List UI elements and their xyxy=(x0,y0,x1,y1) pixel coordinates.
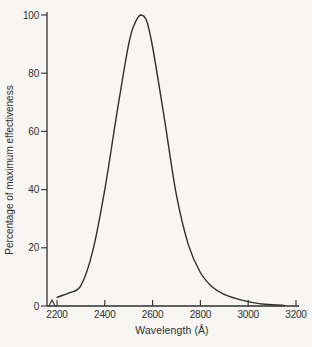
y-tick-label: 40 xyxy=(28,184,39,195)
y-axis-title: Percentage of maximum effectiveness xyxy=(4,85,15,254)
x-tick-label: 3000 xyxy=(237,309,259,320)
y-tick-label: 20 xyxy=(28,242,39,253)
y-tick-label: 100 xyxy=(23,10,40,21)
axis-break-mark xyxy=(49,300,55,306)
x-tick-label: 3200 xyxy=(285,309,307,320)
x-tick-label: 2400 xyxy=(94,309,116,320)
scanned-chart-figure: 020406080100 220024002600280030003200 Wa… xyxy=(0,0,312,347)
x-tick-label: 2800 xyxy=(190,309,212,320)
x-axis-title: Wavelength (Å) xyxy=(135,324,208,336)
effectiveness-curve xyxy=(57,15,284,305)
y-tick-label: 0 xyxy=(34,301,40,312)
x-tick-label: 2200 xyxy=(46,309,68,320)
y-tick-label: 60 xyxy=(28,126,39,137)
x-tick-label: 2600 xyxy=(142,309,164,320)
x-axis-ticks: 220024002600280030003200 xyxy=(46,300,307,320)
y-axis-ticks: 020406080100 xyxy=(23,10,47,312)
effectiveness-chart: 020406080100 220024002600280030003200 Wa… xyxy=(0,0,312,347)
y-tick-label: 80 xyxy=(28,68,39,79)
